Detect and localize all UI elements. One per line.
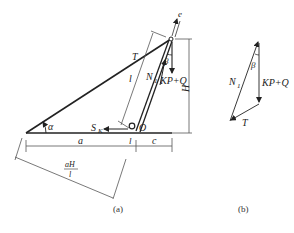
pivot-O: [129, 123, 135, 129]
label-frac-den: l: [69, 170, 72, 179]
top-pin: [169, 37, 173, 41]
aHl-ext-right: [113, 159, 126, 199]
label-e: e: [178, 9, 182, 19]
label-H: H: [180, 84, 191, 93]
b-label-KPQ: KP+Q: [261, 77, 290, 88]
label-l-side: l: [129, 73, 132, 84]
force-diagram: e T β l N 1 KP+Q H α S K O a l c aH l (a…: [0, 0, 294, 233]
caption-b: (b): [238, 204, 249, 214]
b-label-T: T: [242, 117, 249, 128]
b-label-beta: β: [250, 60, 256, 70]
caption-a: (a): [113, 204, 123, 214]
label-a: a: [78, 135, 83, 146]
label-beta: β: [163, 56, 169, 66]
label-N1: N: [145, 71, 154, 82]
label-SK: S: [91, 122, 96, 133]
label-c: c: [152, 135, 157, 146]
figure-a: e T β l N 1 KP+Q H α S K O a l c aH l (a…: [15, 9, 192, 214]
boom-line-2: [140, 41, 172, 132]
b-beta-arc: [255, 54, 259, 55]
rope-T: [26, 39, 171, 133]
aHl-dim-line: [15, 157, 113, 198]
aHl-ext-left: [15, 138, 22, 160]
label-N1-sub: 1: [154, 77, 158, 85]
label-SK-sub: K: [97, 127, 103, 135]
b-label-N1: N: [228, 76, 237, 87]
label-alpha: α: [48, 121, 54, 132]
b-label-N1-sub: 1: [237, 82, 241, 90]
label-frac-num: aH: [65, 160, 76, 169]
label-l-small: l: [129, 136, 132, 146]
O-connector: [118, 121, 129, 128]
label-KPQ: KP+Q: [159, 75, 188, 86]
figure-b: N 1 β KP+Q T (b): [228, 42, 290, 214]
label-O: O: [139, 122, 146, 133]
alpha-arc: [43, 122, 46, 133]
l-dim-ext-top: [151, 31, 166, 37]
